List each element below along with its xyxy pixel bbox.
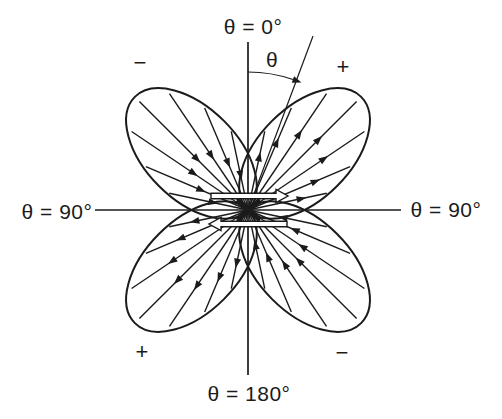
sign-lower-right: − [336, 340, 349, 366]
center-blob [244, 206, 252, 214]
angle-arc [248, 72, 293, 80]
motion-arrowhead-lower-left [176, 234, 186, 241]
label-theta-90-left: θ = 90° [22, 200, 93, 224]
motion-arrowhead-lower-right [290, 228, 300, 235]
label-theta-0: θ = 0° [224, 15, 283, 39]
label-angle-theta: θ [266, 48, 278, 72]
label-theta-180: θ = 180° [207, 382, 290, 406]
motion-arrowhead-lower-right [266, 252, 273, 262]
motion-arrowhead-lower-right [298, 244, 308, 252]
motion-arrowhead-lower-left [234, 258, 241, 268]
motion-arrowhead-upper-left [223, 158, 230, 168]
sign-lower-left: + [136, 339, 149, 365]
motion-arrowhead-upper-left [188, 168, 198, 176]
figure-canvas: θ = 0° θ = 180° θ = 90° θ = 90° θ − + + … [0, 0, 502, 419]
sign-upper-left: − [134, 50, 147, 76]
sign-upper-right: + [337, 54, 350, 80]
motion-arrowhead-lower-left [190, 217, 200, 224]
motion-arrowhead-upper-right [310, 179, 320, 186]
motion-arrowhead-upper-right [296, 196, 306, 203]
motion-arrowhead-lower-left [194, 280, 202, 290]
motion-arrowhead-upper-right [318, 156, 328, 164]
angle-arc-arrowhead [292, 76, 302, 83]
label-theta-90-right: θ = 90° [411, 198, 482, 222]
motion-arrowhead-upper-right [255, 152, 262, 162]
motion-arrowhead-lower-left [217, 272, 224, 282]
motion-arrowhead-upper-left [206, 150, 214, 160]
motion-arrowhead-lower-left [168, 256, 178, 264]
motion-arrowhead-lower-right [282, 260, 290, 270]
motion-arrowhead-upper-left [196, 185, 206, 192]
motion-arrowhead-upper-right [294, 130, 302, 140]
